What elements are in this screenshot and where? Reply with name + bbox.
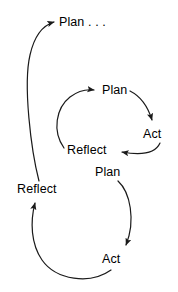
edge-middle-reflect-to-middle-plan <box>57 90 94 148</box>
node-act-middle: Act <box>143 128 161 141</box>
node-plan-bottom: Plan <box>95 166 120 179</box>
node-reflect-middle: Reflect <box>67 144 107 157</box>
node-plan-top: Plan . . . <box>59 16 106 29</box>
plan-act-reflect-diagram: Plan . . . Plan Act Reflect Plan Reflect… <box>0 0 178 292</box>
edge-bottom-reflect-to-top-plan <box>27 22 54 181</box>
node-plan-middle: Plan <box>102 84 127 97</box>
edge-bottom-act-to-bottom-reflect <box>32 203 111 279</box>
edge-bottom-plan-to-bottom-act <box>118 181 131 245</box>
edge-middle-act-to-middle-reflect <box>122 143 160 154</box>
edge-middle-plan-to-middle-act <box>130 91 152 120</box>
node-reflect-bottom: Reflect <box>17 183 57 196</box>
node-act-bottom: Act <box>102 253 120 266</box>
